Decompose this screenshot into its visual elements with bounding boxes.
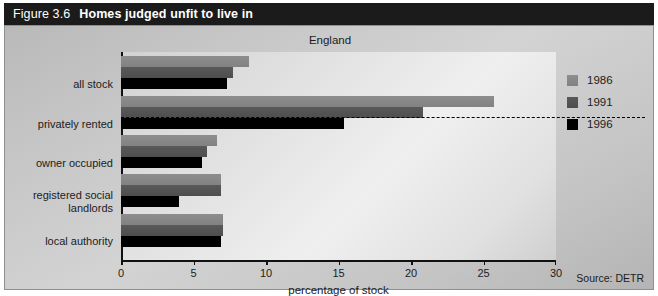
figure-number: Figure 3.6: [13, 7, 70, 21]
legend-label-1986: 1986: [587, 74, 613, 86]
bar-1991-local-authority: [121, 225, 223, 236]
category-label-registered-social-landlords: registered social landlords: [5, 189, 113, 214]
figure-title-bar: Figure 3.6 Homes judged unfit to live in: [4, 3, 654, 25]
category-label-privately-rented: privately rented: [5, 118, 113, 131]
x-tick-label-25: 25: [477, 267, 489, 279]
bar-1996-all-stock: [121, 78, 227, 89]
legend-item-1986: 1986: [567, 74, 613, 86]
bar-1991-owner-occupied: [121, 146, 207, 157]
bar-1986-owner-occupied: [121, 135, 217, 146]
bar-1991-registered-social-landlords: [121, 185, 221, 196]
chart-panel: England all stock privately rented owner…: [4, 25, 654, 290]
bar-1996-local-authority: [121, 236, 221, 247]
legend-item-1996: 1996: [567, 118, 613, 130]
bar-1991-all-stock: [121, 67, 233, 78]
x-tick-5: [194, 260, 196, 265]
legend-item-1991: 1991: [567, 96, 613, 108]
bar-1986-registered-social-landlords: [121, 174, 221, 185]
x-tick-30: [555, 260, 557, 265]
x-tick-label-30: 30: [550, 267, 562, 279]
bar-1986-local-authority: [121, 214, 223, 225]
category-label-local-authority: local authority: [5, 235, 113, 248]
x-tick-label-15: 15: [332, 267, 344, 279]
figure-title: Homes judged unfit to live in: [79, 7, 253, 21]
x-axis-title: percentage of stock: [121, 284, 556, 296]
legend-swatch-1996: [567, 119, 578, 130]
x-tick-label-20: 20: [405, 267, 417, 279]
legend-swatch-1986: [567, 75, 578, 86]
source-note: Source: DETR: [576, 272, 644, 284]
bar-1996-privately-rented: [121, 118, 344, 129]
x-tick-20: [411, 260, 413, 265]
legend-swatch-1991: [567, 97, 578, 108]
bar-1986-privately-rented: [121, 96, 494, 107]
legend: 1986 1991 1996: [567, 74, 613, 140]
bar-1996-owner-occupied: [121, 157, 202, 168]
x-tick-10: [266, 260, 268, 265]
x-tick-label-10: 10: [260, 267, 272, 279]
legend-label-1996: 1996: [587, 118, 613, 130]
plot-area: 0 5 10 15 20 25 30: [121, 52, 556, 260]
x-tick-0: [121, 260, 123, 265]
x-tick-25: [484, 260, 486, 265]
legend-label-1991: 1991: [587, 96, 613, 108]
chart-subtitle: England: [5, 34, 655, 46]
x-tick-15: [339, 260, 341, 265]
category-label-owner-occupied: owner occupied: [5, 157, 113, 170]
x-tick-label-0: 0: [118, 267, 124, 279]
bar-1996-registered-social-landlords: [121, 196, 179, 207]
x-tick-label-5: 5: [190, 267, 196, 279]
category-label-all-stock: all stock: [5, 78, 113, 91]
bar-1986-all-stock: [121, 56, 249, 67]
